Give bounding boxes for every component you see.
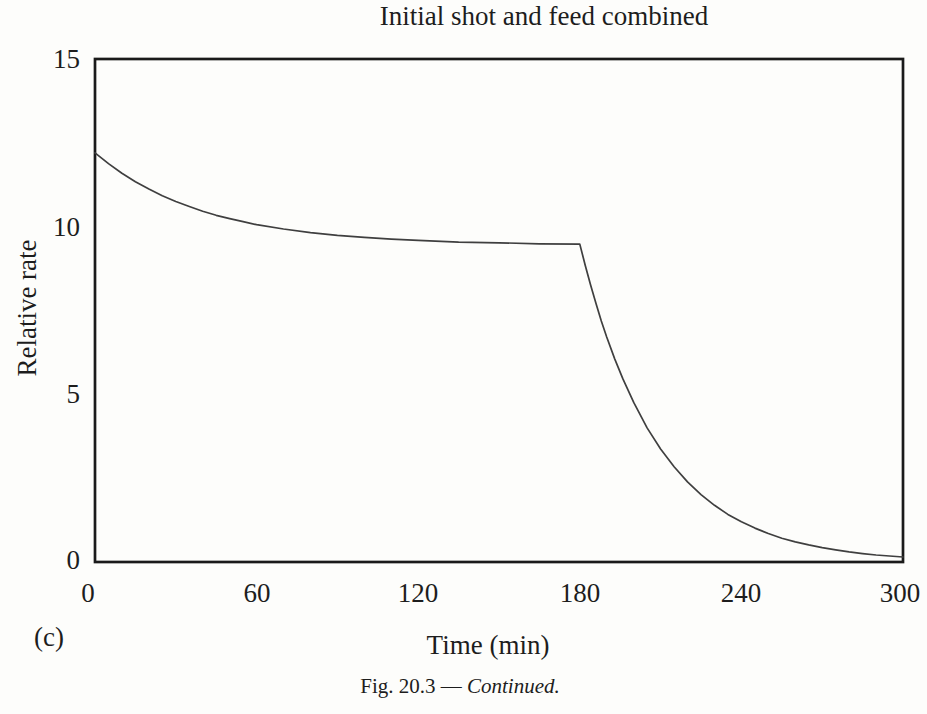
figure-caption: Fig. 20.3 — Continued.	[300, 673, 620, 699]
x-tick-label-180: 180	[540, 578, 620, 608]
y-tick-label-0: 0	[16, 545, 80, 575]
x-tick-label-240: 240	[701, 578, 781, 608]
caption-continued: Continued.	[467, 674, 560, 698]
plot-frame	[95, 59, 903, 562]
plot-area	[0, 0, 927, 714]
x-tick-label-120: 120	[378, 578, 458, 608]
figure: Initial shot and feed combined 15 10 5 0…	[0, 0, 927, 714]
rate-curve	[95, 153, 903, 557]
panel-label: (c)	[34, 622, 64, 652]
x-tick-label-0: 0	[48, 578, 128, 608]
y-axis-label: Relative rate	[12, 208, 42, 408]
x-tick-label-300: 300	[860, 578, 927, 608]
caption-text: Fig. 20.3 —	[360, 674, 467, 698]
x-tick-label-60: 60	[217, 578, 297, 608]
x-axis-label: Time (min)	[388, 629, 588, 661]
y-tick-label-15: 15	[16, 44, 80, 74]
